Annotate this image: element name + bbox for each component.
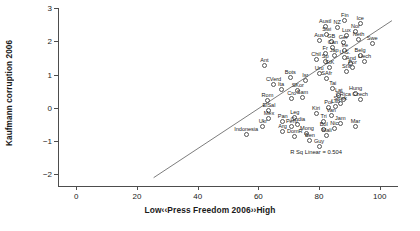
data-point <box>324 133 329 138</box>
data-point-label: Isr <box>302 72 308 78</box>
data-point-label: ElSal <box>263 102 276 108</box>
data-point-label: Ger <box>339 34 348 40</box>
data-point-label: Czech <box>352 91 368 97</box>
data-point-label: Austl <box>319 18 331 24</box>
y-tick-label: 1 <box>48 70 52 79</box>
data-point-label: Kiri <box>312 105 320 111</box>
data-point-label: Liech <box>358 53 371 59</box>
data-point-label: Guy <box>314 138 324 144</box>
y-tick-label: −2 <box>43 170 52 179</box>
y-tick-label: −1 <box>43 137 52 146</box>
data-point <box>279 87 284 92</box>
data-point <box>370 41 375 46</box>
data-point-label: StK <box>325 59 334 65</box>
data-point-label: Nor <box>351 23 360 29</box>
data-point-label: Peru <box>286 118 298 124</box>
data-point-label: Swe <box>367 35 378 41</box>
data-point <box>292 134 297 139</box>
data-point-label: Ire <box>342 42 348 48</box>
data-point-label: Jap <box>330 47 339 53</box>
data-point <box>338 121 343 126</box>
data-point-label: Mali <box>322 127 332 133</box>
data-point-label: Can <box>328 39 338 45</box>
x-axis-title: Low‹‹Press Freedom 2006››High <box>0 205 420 215</box>
data-point <box>344 69 349 74</box>
data-point-label: Tri <box>321 113 327 119</box>
data-point <box>307 138 312 143</box>
data-point-label: Van <box>327 107 336 113</box>
data-point-label: Pol <box>324 99 332 105</box>
x-tick <box>319 186 320 190</box>
data-point-label: Sam <box>297 89 308 95</box>
data-point-label: Lux <box>342 27 351 33</box>
y-tick-label: 3 <box>48 4 52 13</box>
x-tick-label: 100 <box>373 192 386 201</box>
data-point <box>314 57 319 62</box>
data-point-label: Rom <box>262 92 274 98</box>
data-point-label: Indonesia <box>234 126 258 132</box>
data-point <box>353 124 358 129</box>
data-point-label: Fin <box>341 12 349 18</box>
data-point-label: NZ <box>334 19 341 25</box>
data-point <box>260 124 265 129</box>
data-point-label: Leg <box>290 109 299 115</box>
data-point-label: Nic <box>330 120 338 126</box>
x-tick <box>76 186 77 190</box>
x-tick-label: 20 <box>132 192 141 201</box>
data-point-label: Bots <box>285 69 296 75</box>
y-tick-label: 0 <box>48 103 52 112</box>
data-point <box>358 97 363 102</box>
x-tick <box>198 186 199 190</box>
data-point-label: Chil <box>311 51 320 57</box>
x-tick-label: 0 <box>74 192 78 201</box>
data-point-label: Lith <box>331 98 340 104</box>
data-point <box>335 25 340 30</box>
data-point <box>271 82 276 87</box>
x-tick-label: 40 <box>193 192 202 201</box>
x-axis-line <box>58 186 398 187</box>
x-tick <box>380 186 381 190</box>
data-point-label: Aus <box>314 32 324 38</box>
data-point-label: StV <box>342 63 351 69</box>
data-point <box>327 65 332 70</box>
data-point-label: Mar <box>351 118 360 124</box>
y-axis-title: Kaufmann corruption 2006 <box>2 0 16 185</box>
data-point <box>262 63 267 68</box>
data-point-label: Fr <box>323 45 328 51</box>
data-point-label: SAfr <box>321 70 332 76</box>
data-point-label: DomR <box>287 128 303 134</box>
data-point <box>329 113 334 118</box>
data-point <box>289 96 294 101</box>
scatter-plot-figure: Kaufmann corruption 2006 −2−10123 020406… <box>0 0 420 231</box>
data-point <box>342 18 347 23</box>
data-point <box>317 38 322 43</box>
data-point <box>280 129 285 134</box>
r-squared-annotation: R Sq Linear = 0.504 <box>290 149 342 155</box>
data-point <box>288 75 293 80</box>
data-point-label: Ice <box>356 15 363 21</box>
data-point <box>300 95 305 100</box>
data-point-label: Ant <box>260 57 268 63</box>
data-point-label: Arg <box>278 123 287 129</box>
data-point-label: Cro <box>287 90 296 96</box>
data-point <box>314 111 319 116</box>
x-tick-label: 60 <box>254 192 263 201</box>
data-point <box>356 37 361 42</box>
data-point <box>332 53 337 58</box>
data-point <box>244 132 249 137</box>
x-tick <box>258 186 259 190</box>
data-point-label: Ita <box>278 81 284 87</box>
data-point-label: Ukr <box>259 118 268 124</box>
plot-area: −2−10123 020406080100 FinIceNorNZAustlSw… <box>58 8 398 186</box>
data-point-label: Mex <box>264 110 274 116</box>
data-point-label: Neth <box>353 31 365 37</box>
x-tick <box>137 186 138 190</box>
x-tick-label: 80 <box>315 192 324 201</box>
data-point-label: Tai <box>329 80 336 86</box>
data-points-layer: FinIceNorNZAustlSwiLuxNethGerGBAusSweCan… <box>58 8 398 186</box>
data-point-label: SKor <box>292 82 304 88</box>
y-tick-label: 2 <box>48 37 52 46</box>
data-point <box>332 126 337 131</box>
data-point <box>362 59 367 64</box>
